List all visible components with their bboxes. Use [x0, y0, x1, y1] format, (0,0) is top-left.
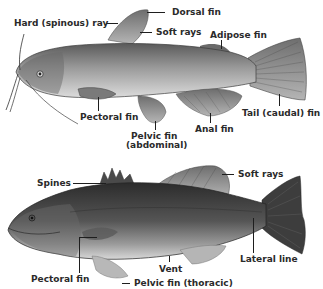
label-lateral-line: Lateral line: [240, 254, 298, 264]
label-soft-rays-catfish: Soft rays: [156, 27, 201, 37]
label-adipose-fin: Adipose fin: [210, 30, 267, 40]
label-pectoral-fin-catfish: Pectoral fin: [80, 112, 138, 122]
label-dorsal-fin: Dorsal fin: [172, 7, 221, 17]
label-anal-fin: Anal fin: [195, 124, 234, 134]
pelvic-fin-leader-bass: [122, 283, 130, 284]
label-tail-caudal-fin: Tail (caudal) fin: [242, 108, 320, 118]
label-vent: Vent: [159, 264, 182, 274]
pelvic-fin-leader-catfish: [155, 121, 156, 130]
pectoral-fin-leader-bass-h: [79, 237, 97, 238]
spines-leader: [73, 183, 106, 184]
vent-leader: [169, 256, 170, 262]
soft-rays-leader-bass: [222, 174, 234, 175]
lateral-line-leader: [253, 218, 254, 253]
adipose-fin-leader: [221, 40, 222, 49]
label-soft-rays-bass: Soft rays: [238, 169, 283, 179]
dorsal-fin-leader: [147, 12, 165, 13]
label-hard-spinous-ray: Hard (spinous) ray: [14, 18, 108, 28]
soft-rays-leader-catfish: [140, 32, 152, 33]
anal-fin-leader: [210, 113, 211, 123]
label-pelvic-fin-thoracic: Pelvic fin (thoracic): [134, 278, 233, 288]
label-pelvic-fin-abdominal-line2: (abdominal): [126, 140, 187, 150]
pectoral-fin-leader-catfish: [98, 97, 99, 111]
label-spines: Spines: [37, 178, 71, 188]
pectoral-fin-leader-bass: [79, 237, 80, 273]
tail-fin-leader: [279, 94, 280, 106]
label-pectoral-fin-bass: Pectoral fin: [31, 274, 89, 284]
